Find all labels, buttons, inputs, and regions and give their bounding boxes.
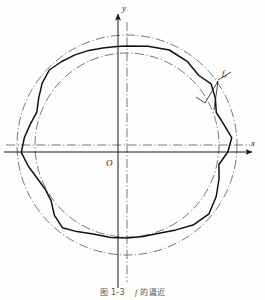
figure-drawing xyxy=(0,0,265,300)
curve-label-subscript: ε xyxy=(224,73,226,79)
approximating-polygon-curve xyxy=(21,46,231,238)
figure-container: x y O fε 图 1-3f 的逼近 xyxy=(0,0,265,300)
curve-label-f-epsilon: fε xyxy=(222,69,227,79)
x-axis-label: x xyxy=(251,139,255,148)
caption-text: 的逼近 xyxy=(140,288,165,297)
callout-tick xyxy=(196,97,205,103)
caption-number: 图 1-3 xyxy=(100,288,125,297)
y-axis-label: y xyxy=(122,4,126,13)
caption-symbol: f xyxy=(135,288,138,297)
figure-caption: 图 1-3f 的逼近 xyxy=(0,286,265,297)
origin-label: O xyxy=(106,159,113,168)
